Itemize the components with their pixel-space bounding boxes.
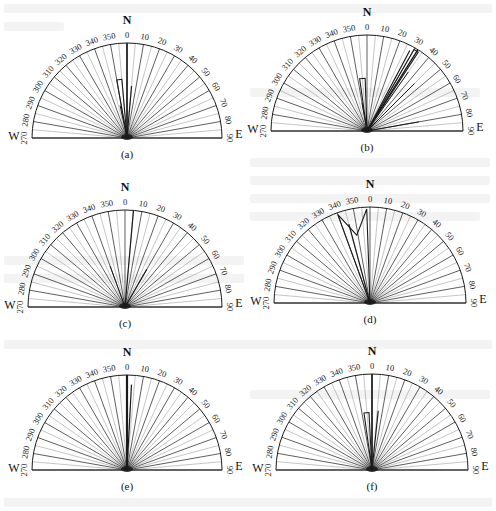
tick-label-40: 40 <box>186 220 199 233</box>
frequency-stroke <box>349 224 370 303</box>
wind-rose-panel-c: 2702802903003103203303403500102030405060… <box>4 180 242 330</box>
tick-label-50: 50 <box>199 397 212 410</box>
panel-label-b: (b) <box>361 141 374 154</box>
radial-line-minor <box>119 375 127 470</box>
tick-label-270: 270 <box>19 132 29 145</box>
tick-label-300: 300 <box>30 78 45 94</box>
radial-line-minor <box>125 282 219 307</box>
radial-line-minor <box>271 123 367 131</box>
radial-line-minor <box>370 207 378 303</box>
tick-label-80: 80 <box>223 284 234 294</box>
north-label: N <box>121 180 130 194</box>
radial-line-minor <box>87 384 127 470</box>
north-label: N <box>123 13 132 27</box>
tick-label-50: 50 <box>440 58 453 71</box>
tick-label-60: 60 <box>210 412 223 424</box>
radial-line-minor <box>277 278 370 303</box>
tick-label-80: 80 <box>464 108 475 118</box>
radial-line-minor <box>127 130 222 138</box>
panel-label-e: (e) <box>121 480 134 493</box>
frequency-stroke <box>125 210 133 307</box>
tick-label-90: 90 <box>471 466 481 475</box>
tick-label-60: 60 <box>456 412 469 424</box>
tick-label-10: 10 <box>383 195 393 206</box>
tick-label-340: 340 <box>84 34 99 48</box>
radial-line-minor <box>372 429 459 470</box>
radial-line-minor <box>372 462 468 470</box>
tick-label-40: 40 <box>187 384 200 397</box>
tick-label-280: 280 <box>262 278 274 292</box>
tick-label-0: 0 <box>368 194 372 204</box>
radial-line-minor <box>127 52 167 138</box>
radial-line-minor <box>32 462 127 470</box>
tick-label-30: 30 <box>172 42 184 55</box>
tick-label-80: 80 <box>223 115 234 125</box>
tick-label-80: 80 <box>467 280 478 290</box>
radial-line-minor <box>127 113 219 138</box>
radial-line-minor <box>280 90 367 131</box>
radial-line-minor <box>285 429 372 470</box>
tick-label-300: 300 <box>272 243 287 259</box>
wind-rose-panel-d: 2702802903003103203303403500102030405060… <box>250 177 486 326</box>
radial-line-minor <box>127 98 213 138</box>
radial-line-minor <box>32 130 127 138</box>
radial-line-minor <box>367 44 408 131</box>
radial-line-minor <box>125 266 213 307</box>
tick-label-340: 340 <box>81 201 96 215</box>
tick-label-70: 70 <box>462 262 474 273</box>
tick-label-80: 80 <box>469 447 480 457</box>
tick-label-30: 30 <box>418 373 430 386</box>
west-label: W <box>8 129 20 143</box>
wind-rose-panel-f: 2702802903003103203303403500102030405060… <box>252 344 488 493</box>
radial-line-minor <box>35 445 127 470</box>
tick-label-90: 90 <box>225 466 235 475</box>
radial-line-minor <box>125 299 222 307</box>
west-label: W <box>247 122 259 136</box>
tick-label-20: 20 <box>402 366 413 378</box>
tick-label-340: 340 <box>327 198 342 212</box>
radial-line-minor <box>367 38 392 131</box>
north-label: N <box>368 344 377 358</box>
tick-label-280: 280 <box>259 106 271 120</box>
tick-label-90: 90 <box>225 134 235 143</box>
radial-line-minor <box>370 278 463 303</box>
tick-label-270: 270 <box>19 464 29 477</box>
tick-label-330: 330 <box>67 373 83 388</box>
tick-label-70: 70 <box>218 97 230 108</box>
tick-label-330: 330 <box>307 33 323 48</box>
tick-label-40: 40 <box>430 217 443 230</box>
tick-label-80: 80 <box>223 447 234 457</box>
tick-label-270: 270 <box>261 297 271 310</box>
east-label: E <box>476 120 483 134</box>
east-label: E <box>481 459 488 473</box>
tick-label-290: 290 <box>267 427 281 442</box>
radial-line-minor <box>370 262 457 303</box>
tick-label-90: 90 <box>469 299 479 308</box>
radial-line-minor <box>127 445 219 470</box>
tick-label-300: 300 <box>274 410 289 426</box>
tick-label-40: 40 <box>187 52 200 65</box>
radial-line-minor <box>102 378 127 470</box>
tick-label-0: 0 <box>125 362 129 372</box>
tick-label-50: 50 <box>199 233 212 246</box>
panel-label-d: (d) <box>364 313 377 326</box>
radial-line-minor <box>41 98 127 138</box>
tick-label-340: 340 <box>84 366 99 380</box>
tick-label-300: 300 <box>30 410 45 426</box>
wind-rose-figure: 2702802903003103203303403500102030405060… <box>0 0 496 511</box>
tick-label-20: 20 <box>400 199 411 211</box>
radial-line-minor <box>127 430 213 470</box>
tick-label-90: 90 <box>225 303 235 312</box>
tick-label-290: 290 <box>23 427 37 442</box>
tick-label-290: 290 <box>262 88 276 103</box>
tick-label-90: 90 <box>466 127 476 136</box>
tick-label-10: 10 <box>385 362 395 373</box>
radial-line-minor <box>372 445 465 470</box>
tick-label-50: 50 <box>445 397 458 410</box>
west-label: W <box>4 298 16 312</box>
tick-label-0: 0 <box>125 30 129 40</box>
tick-label-280: 280 <box>19 113 31 127</box>
tick-label-350: 350 <box>342 23 356 35</box>
radial-line-minor <box>279 445 372 470</box>
tick-label-70: 70 <box>459 90 471 101</box>
